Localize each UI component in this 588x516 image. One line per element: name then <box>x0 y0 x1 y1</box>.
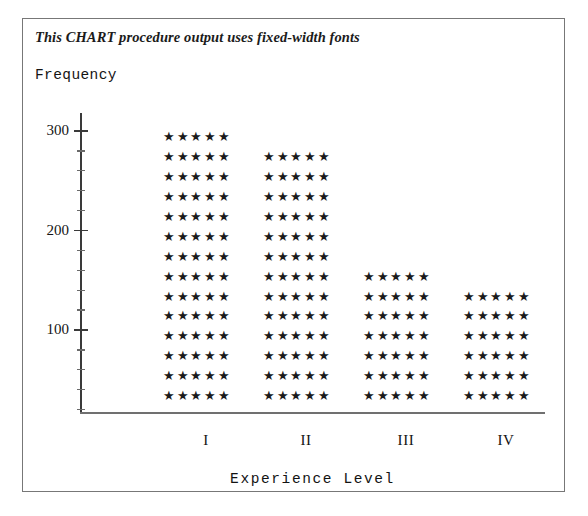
y-tick-mark <box>74 230 88 232</box>
star-row: ★★★★★ <box>163 347 249 367</box>
star-row: ★★★★★ <box>263 307 349 327</box>
plot-area: 100200300 ★★★★★★★★★★★★★★★★★★★★★★★★★★★★★★… <box>23 19 566 493</box>
star-row: ★★★★★ <box>163 387 249 407</box>
x-axis-title: Experience Level <box>80 471 545 487</box>
star-row: ★★★★★ <box>163 367 249 387</box>
y-axis-line <box>80 113 82 413</box>
star-row: ★★★★★ <box>463 327 549 347</box>
star-bar-column: ★★★★★★★★★★★★★★★★★★★★★★★★★★★★★★ <box>463 288 549 407</box>
star-bar-column: ★★★★★★★★★★★★★★★★★★★★★★★★★★★★★★★★★★★★★★★★… <box>263 148 349 407</box>
y-minor-tick-mark <box>77 270 85 271</box>
y-minor-tick-mark <box>77 369 85 370</box>
star-row: ★★★★★ <box>263 228 349 248</box>
y-tick-label: 100 <box>25 321 69 338</box>
y-minor-tick-mark <box>77 349 85 350</box>
star-row: ★★★★★ <box>363 307 449 327</box>
star-row: ★★★★★ <box>263 148 349 168</box>
star-row: ★★★★★ <box>363 268 449 288</box>
chart-frame: This CHART procedure output uses fixed-w… <box>22 18 565 492</box>
star-row: ★★★★★ <box>263 248 349 268</box>
star-row: ★★★★★ <box>263 387 349 407</box>
star-row: ★★★★★ <box>363 387 449 407</box>
x-category-label: IV <box>463 432 549 449</box>
star-row: ★★★★★ <box>263 367 349 387</box>
star-row: ★★★★★ <box>263 288 349 308</box>
star-row: ★★★★★ <box>163 288 249 308</box>
star-bar-column: ★★★★★★★★★★★★★★★★★★★★★★★★★★★★★★★★★★★★★★★★… <box>163 128 249 407</box>
y-minor-tick-mark <box>77 210 85 211</box>
star-row: ★★★★★ <box>263 327 349 347</box>
star-row: ★★★★★ <box>163 307 249 327</box>
x-axis-line <box>80 412 545 414</box>
star-row: ★★★★★ <box>163 268 249 288</box>
star-row: ★★★★★ <box>163 148 249 168</box>
y-minor-tick-mark <box>77 290 85 291</box>
star-row: ★★★★★ <box>363 288 449 308</box>
star-row: ★★★★★ <box>463 288 549 308</box>
star-row: ★★★★★ <box>263 168 349 188</box>
y-minor-tick-mark <box>77 409 85 410</box>
y-tick-mark <box>74 329 88 331</box>
star-row: ★★★★★ <box>163 228 249 248</box>
x-category-label: II <box>263 432 349 449</box>
y-tick-mark <box>74 130 88 132</box>
star-row: ★★★★★ <box>463 307 549 327</box>
y-minor-tick-mark <box>77 150 85 151</box>
star-row: ★★★★★ <box>263 188 349 208</box>
star-row: ★★★★★ <box>363 367 449 387</box>
star-row: ★★★★★ <box>263 347 349 367</box>
x-category-label: I <box>163 432 249 449</box>
star-row: ★★★★★ <box>163 248 249 268</box>
star-row: ★★★★★ <box>463 387 549 407</box>
star-row: ★★★★★ <box>363 347 449 367</box>
star-row: ★★★★★ <box>163 188 249 208</box>
star-row: ★★★★★ <box>463 367 549 387</box>
star-row: ★★★★★ <box>163 208 249 228</box>
y-minor-tick-mark <box>77 389 85 390</box>
y-minor-tick-mark <box>77 309 85 310</box>
y-minor-tick-mark <box>77 170 85 171</box>
star-row: ★★★★★ <box>363 327 449 347</box>
star-bar-column: ★★★★★★★★★★★★★★★★★★★★★★★★★★★★★★★★★★★ <box>363 268 449 407</box>
star-row: ★★★★★ <box>163 128 249 148</box>
y-tick-label: 300 <box>25 122 69 139</box>
y-minor-tick-mark <box>77 190 85 191</box>
star-row: ★★★★★ <box>263 268 349 288</box>
y-minor-tick-mark <box>77 250 85 251</box>
y-tick-label: 200 <box>25 222 69 239</box>
star-row: ★★★★★ <box>163 168 249 188</box>
x-category-label: III <box>363 432 449 449</box>
star-row: ★★★★★ <box>163 327 249 347</box>
star-row: ★★★★★ <box>263 208 349 228</box>
star-row: ★★★★★ <box>463 347 549 367</box>
